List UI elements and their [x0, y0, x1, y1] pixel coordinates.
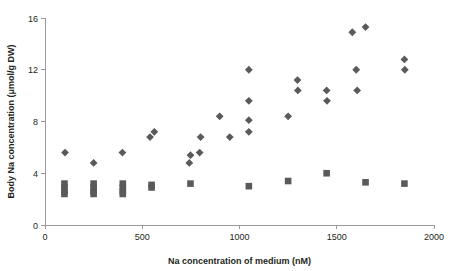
data-point-diamond-6 [187, 151, 195, 159]
y-tick-label-8: 8 [33, 117, 38, 127]
chart-plot-area: 04812160500100015002000Na concentration … [0, 0, 453, 271]
scatter-chart-figure: 04812160500100015002000Na concentration … [0, 0, 453, 271]
data-point-diamond-18 [323, 87, 331, 95]
data-point-diamond-24 [401, 56, 409, 64]
y-tick-label-0: 0 [33, 221, 38, 231]
data-point-diamond-15 [284, 112, 292, 120]
data-point-diamond-3 [146, 133, 154, 141]
data-point-diamond-22 [353, 87, 361, 95]
data-point-diamond-12 [245, 97, 253, 105]
data-point-square-16 [285, 178, 292, 185]
data-point-square-13 [148, 184, 155, 191]
data-point-diamond-7 [196, 149, 204, 157]
data-point-diamond-25 [401, 66, 409, 74]
data-point-diamond-1 [90, 159, 98, 167]
data-point-diamond-17 [294, 87, 302, 95]
data-point-diamond-0 [61, 149, 69, 157]
y-tick-label-12: 12 [28, 65, 38, 75]
data-point-diamond-5 [185, 159, 193, 167]
data-point-diamond-19 [323, 97, 331, 105]
data-point-diamond-23 [362, 23, 370, 31]
data-point-square-11 [120, 191, 127, 198]
data-point-diamond-8 [197, 133, 205, 141]
x-tick-label-1500: 1500 [327, 232, 347, 242]
data-point-diamond-10 [226, 133, 234, 141]
data-point-square-7 [90, 191, 97, 198]
x-tick-label-500: 500 [135, 232, 150, 242]
data-point-diamond-2 [119, 149, 127, 157]
x-tick-label-0: 0 [42, 232, 47, 242]
data-point-square-18 [362, 179, 369, 186]
y-tick-label-4: 4 [33, 169, 38, 179]
y-tick-label-16: 16 [28, 14, 38, 24]
y-axis-title: Body Na concentration (μmol/g DW) [6, 44, 16, 198]
data-point-diamond-13 [245, 116, 253, 124]
x-tick-label-2000: 2000 [424, 232, 444, 242]
data-point-diamond-16 [294, 76, 302, 84]
data-point-diamond-21 [352, 66, 360, 74]
data-point-diamond-11 [245, 66, 253, 74]
data-point-square-19 [401, 180, 408, 187]
x-tick-label-1000: 1000 [229, 232, 249, 242]
data-point-square-17 [323, 170, 330, 177]
data-point-square-14 [187, 180, 194, 187]
data-point-diamond-14 [245, 128, 253, 136]
data-point-square-15 [246, 183, 253, 190]
data-point-diamond-4 [150, 128, 158, 136]
data-point-square-3 [61, 191, 68, 198]
x-axis-title: Na concentration of medium (nM) [168, 256, 311, 266]
data-point-diamond-20 [348, 28, 356, 36]
data-point-diamond-9 [216, 112, 224, 120]
